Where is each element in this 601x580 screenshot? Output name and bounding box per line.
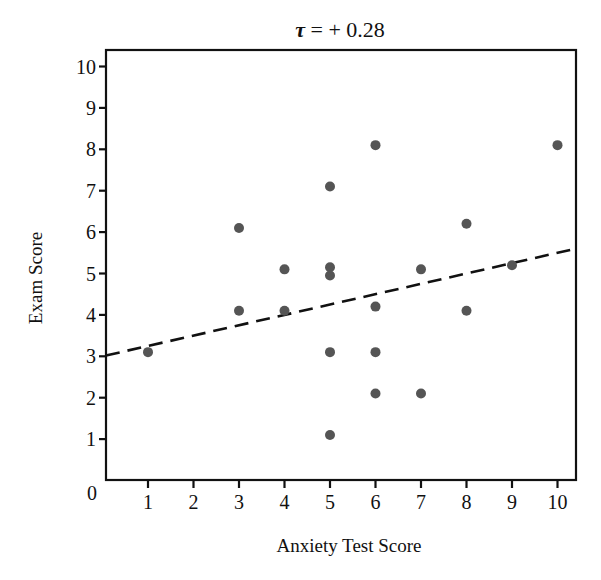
data-point [371, 140, 381, 150]
data-point [280, 306, 290, 316]
x-tick-label: 10 [548, 491, 568, 513]
x-tick-label: 6 [371, 491, 381, 513]
origin-label: 0 [87, 482, 97, 504]
data-point [371, 389, 381, 399]
y-tick-label: 6 [86, 221, 96, 243]
chart-title: τ = + 0.28 [295, 17, 385, 42]
scatter-chart: τ = + 0.28 12345678910 12345678910 0 Anx… [0, 0, 601, 580]
x-axis-title: Anxiety Test Score [276, 535, 421, 556]
y-tick-label: 2 [86, 387, 96, 409]
y-tick-label: 7 [86, 180, 96, 202]
data-point [371, 347, 381, 357]
x-tick-label: 9 [507, 491, 517, 513]
data-point [416, 389, 426, 399]
x-axis-ticks: 12345678910 [143, 480, 568, 513]
title-value: = + 0.28 [305, 17, 385, 42]
x-tick-label: 1 [143, 491, 153, 513]
data-point [325, 182, 335, 192]
data-point [143, 347, 153, 357]
data-point [371, 302, 381, 312]
x-tick-label: 5 [325, 491, 335, 513]
trend-line [106, 249, 576, 356]
data-points [143, 140, 563, 440]
data-point [462, 306, 472, 316]
y-axis-title: Exam Score [25, 232, 46, 324]
data-point [553, 140, 563, 150]
x-tick-label: 3 [234, 491, 244, 513]
y-tick-label: 10 [76, 56, 96, 78]
y-tick-label: 8 [86, 138, 96, 160]
y-axis-ticks: 12345678910 [76, 56, 107, 451]
x-tick-label: 4 [280, 491, 290, 513]
data-point [234, 223, 244, 233]
data-point [507, 260, 517, 270]
x-tick-label: 8 [462, 491, 472, 513]
y-tick-label: 9 [86, 97, 96, 119]
data-point [462, 219, 472, 229]
data-point [325, 347, 335, 357]
data-point [325, 271, 335, 281]
x-tick-label: 2 [189, 491, 199, 513]
data-point [416, 264, 426, 274]
data-point [280, 264, 290, 274]
y-tick-label: 5 [86, 263, 96, 285]
x-tick-label: 7 [416, 491, 426, 513]
data-point [234, 306, 244, 316]
data-point [325, 430, 335, 440]
y-tick-label: 1 [86, 428, 96, 450]
y-tick-label: 4 [86, 304, 96, 326]
y-tick-label: 3 [86, 345, 96, 367]
